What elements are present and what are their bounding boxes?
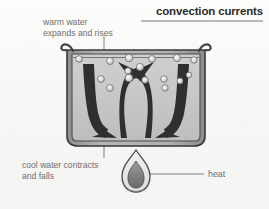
bubble (173, 54, 180, 61)
bubble (76, 56, 83, 63)
pot-vessel (61, 44, 210, 147)
bubble (136, 63, 143, 70)
bubble (191, 57, 197, 63)
bubble (162, 85, 168, 91)
bubble (125, 68, 131, 74)
label-heat: heat (208, 169, 225, 180)
flame-icon (122, 150, 150, 192)
bubble (149, 56, 156, 63)
bubble (125, 54, 133, 62)
bubble (107, 58, 114, 65)
convection-currents-figure: convection currents (0, 0, 269, 209)
bubble (177, 78, 183, 84)
bubble (186, 72, 192, 78)
bubble (161, 76, 168, 83)
bubble (98, 76, 105, 83)
bubble (142, 77, 148, 83)
label-cool-water: cool water contracts and falls (22, 160, 98, 181)
bubble (125, 74, 133, 82)
label-warm-water: warm water expands and rises (43, 17, 113, 38)
bubble (107, 85, 114, 92)
